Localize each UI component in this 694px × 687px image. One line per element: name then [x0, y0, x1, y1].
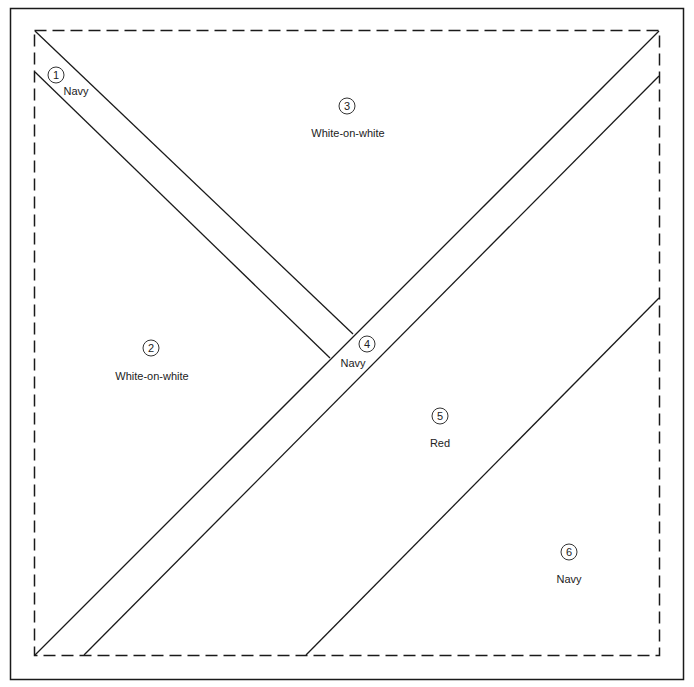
seam-piece4-upper [35, 31, 659, 655]
piece-2-label: 2 White-on-white [115, 340, 188, 382]
piece-6-label: 6 Navy [556, 544, 582, 585]
seam-piece1-upper [35, 31, 353, 334]
piece-4-label: 4 Navy [340, 336, 375, 369]
quilt-block-diagram: 1 Navy 2 White-on-white 3 White-on-white… [0, 0, 694, 687]
piece-number: 6 [566, 546, 572, 558]
piece-fabric: White-on-white [115, 370, 188, 382]
seam-piece1-lower [35, 72, 330, 358]
piece-fabric: Navy [63, 85, 89, 97]
piece-fabric: Red [430, 437, 450, 449]
seam-piece4-lower [84, 76, 659, 655]
piece-fabric: Navy [340, 357, 366, 369]
piece-number: 2 [148, 342, 154, 354]
piece-3-label: 3 White-on-white [311, 98, 384, 139]
piece-fabric: White-on-white [311, 127, 384, 139]
piece-fabric: Navy [556, 573, 582, 585]
piece-number: 4 [364, 338, 370, 350]
piece-5-label: 5 Red [430, 408, 450, 449]
piece-number: 5 [437, 410, 443, 422]
seam-piece5-6 [306, 298, 659, 655]
piece-number: 1 [53, 69, 59, 81]
piece-number: 3 [344, 100, 350, 112]
piece-1-label: 1 Navy [48, 67, 89, 97]
